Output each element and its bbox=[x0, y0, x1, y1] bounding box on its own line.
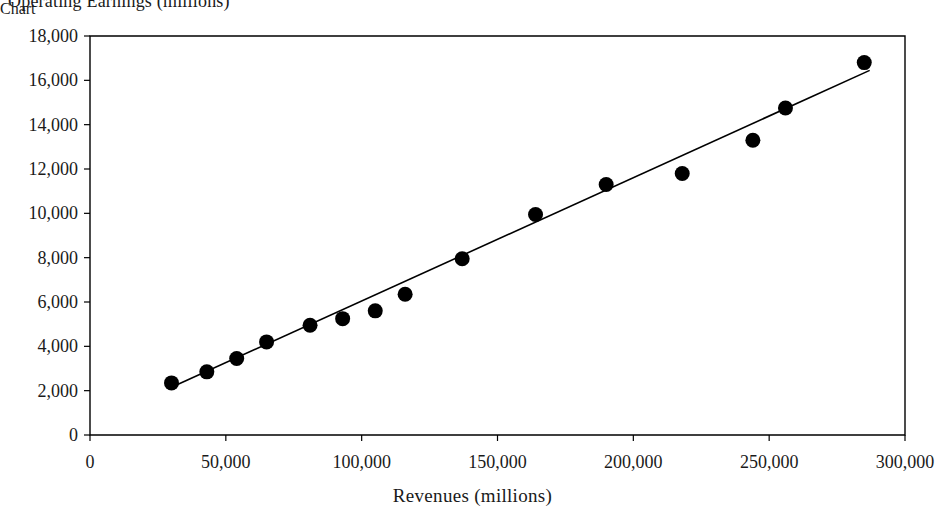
trend-line bbox=[172, 70, 870, 387]
data-point bbox=[229, 351, 244, 366]
data-point bbox=[599, 177, 614, 192]
data-point bbox=[259, 334, 274, 349]
data-point bbox=[199, 364, 214, 379]
scatter-chart: Operating Earnings (millions) 02,0004,00… bbox=[0, 0, 945, 524]
data-point bbox=[745, 133, 760, 148]
data-point bbox=[335, 311, 350, 326]
x-axis-title: Revenues (millions) bbox=[0, 485, 945, 507]
plot-area bbox=[0, 0, 945, 524]
data-point bbox=[164, 375, 179, 390]
data-point bbox=[368, 303, 383, 318]
data-point bbox=[398, 287, 413, 302]
axis-tick-marks bbox=[84, 36, 905, 441]
data-point bbox=[857, 55, 872, 70]
data-point bbox=[455, 251, 470, 266]
data-point bbox=[675, 166, 690, 181]
data-point bbox=[528, 207, 543, 222]
data-point-markers bbox=[164, 55, 872, 390]
data-point bbox=[778, 101, 793, 116]
data-point bbox=[303, 318, 318, 333]
